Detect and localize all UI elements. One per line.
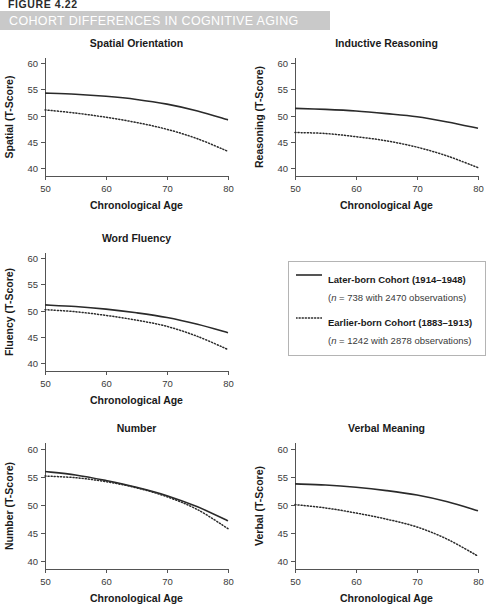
x-tick-label: 60: [101, 378, 112, 389]
series-line-dotted: [45, 476, 228, 529]
y-tick-label: 55: [27, 84, 38, 95]
x-axis-title: Chronological Age: [340, 592, 433, 604]
x-tick-label: 50: [290, 576, 301, 587]
y-axis-title: Number (T-Score): [3, 462, 15, 550]
y-tick-label: 45: [27, 528, 38, 539]
chart-panel-word-fluency: Word Fluency404550556050607080Chronologi…: [0, 228, 249, 418]
legend-sub-earlier-born: (n = 1242 with 2878 observations): [328, 335, 471, 346]
x-tick-label: 70: [412, 183, 423, 194]
y-tick-label: 50: [27, 306, 38, 317]
legend-dotted-line-icon: [296, 312, 322, 324]
y-tick-label: 50: [27, 111, 38, 122]
x-tick-label: 70: [412, 576, 423, 587]
y-tick-label: 45: [27, 332, 38, 343]
axis-spines: [45, 443, 228, 569]
chart-legend: Later-born Cohort (1914–1948) (n = 738 w…: [288, 261, 486, 356]
series-line-solid: [45, 472, 228, 521]
panel-title-number: Number: [117, 422, 157, 434]
y-tick-label: 60: [27, 253, 38, 264]
chart-panel-spatial-orientation: Spatial Orientation404550556050607080Chr…: [0, 33, 249, 223]
x-tick-label: 80: [473, 576, 484, 587]
x-axis-title: Chronological Age: [90, 394, 183, 406]
x-tick-label: 60: [351, 576, 362, 587]
y-tick-label: 60: [27, 444, 38, 455]
series-line-dotted: [45, 110, 228, 151]
series-line-solid: [45, 305, 228, 333]
y-tick-label: 45: [277, 528, 288, 539]
y-tick-label: 55: [27, 279, 38, 290]
y-axis-title: Reasoning (T-Score): [253, 66, 265, 168]
axis-spines: [295, 443, 478, 569]
x-axis-title: Chronological Age: [90, 199, 183, 211]
y-axis-title: Verbal (T-Score): [253, 466, 265, 546]
panel-title-spatial-orientation: Spatial Orientation: [90, 37, 183, 49]
x-tick-label: 50: [40, 183, 51, 194]
y-axis-title: Spatial (T-Score): [3, 76, 15, 159]
y-tick-label: 60: [27, 58, 38, 69]
x-tick-label: 80: [223, 576, 234, 587]
x-axis-title: Chronological Age: [340, 199, 433, 211]
y-tick-label: 40: [27, 358, 38, 369]
x-tick-label: 60: [101, 576, 112, 587]
y-tick-label: 55: [277, 84, 288, 95]
panel-title-inductive-reasoning: Inductive Reasoning: [335, 37, 438, 49]
series-line-dotted: [295, 505, 478, 557]
panel-title-word-fluency: Word Fluency: [102, 232, 171, 244]
chart-panel-inductive-reasoning: Inductive Reasoning404550556050607080Chr…: [250, 33, 499, 223]
series-line-dotted: [45, 310, 228, 350]
y-tick-label: 55: [27, 472, 38, 483]
y-tick-label: 60: [277, 444, 288, 455]
chart-panel-verbal-meaning: Verbal Meaning404550556050607080Chronolo…: [250, 418, 499, 616]
banner-title: COHORT DIFFERENCES IN COGNITIVE AGING: [0, 14, 299, 28]
legend-sub-later-born: (n = 738 with 2470 observations): [328, 292, 466, 303]
x-tick-label: 70: [162, 183, 173, 194]
series-line-solid: [295, 484, 478, 511]
y-tick-label: 50: [277, 500, 288, 511]
y-axis-title: Fluency (T-Score): [3, 268, 15, 356]
x-tick-label: 80: [223, 183, 234, 194]
y-tick-label: 60: [277, 58, 288, 69]
series-line-solid: [45, 93, 228, 120]
legend-row: Earlier-born Cohort (1883–1913) (n = 124…: [296, 312, 477, 348]
figure-number: FIGURE 4.22: [8, 0, 78, 10]
axis-spines: [295, 58, 478, 176]
section-banner: COHORT DIFFERENCES IN COGNITIVE AGING: [0, 11, 330, 30]
legend-label-earlier-born: Earlier-born Cohort (1883–1913): [328, 317, 472, 328]
legend-row: Later-born Cohort (1914–1948) (n = 738 w…: [296, 269, 477, 305]
x-tick-label: 50: [290, 183, 301, 194]
x-tick-label: 80: [473, 183, 484, 194]
panel-title-verbal-meaning: Verbal Meaning: [348, 422, 425, 434]
axis-spines: [45, 58, 228, 176]
y-tick-label: 45: [27, 137, 38, 148]
x-axis-title: Chronological Age: [90, 592, 183, 604]
series-line-dotted: [295, 132, 478, 167]
x-tick-label: 50: [40, 378, 51, 389]
y-tick-label: 50: [27, 500, 38, 511]
series-line-solid: [295, 108, 478, 128]
y-tick-label: 40: [277, 163, 288, 174]
legend-solid-line-icon: [296, 269, 322, 281]
y-tick-label: 45: [277, 137, 288, 148]
x-tick-label: 50: [40, 576, 51, 587]
x-tick-label: 60: [351, 183, 362, 194]
y-tick-label: 40: [277, 556, 288, 567]
y-tick-label: 40: [27, 163, 38, 174]
y-tick-label: 40: [27, 556, 38, 567]
chart-panel-number: Number404550556050607080Chronological Ag…: [0, 418, 249, 616]
x-tick-label: 70: [162, 378, 173, 389]
x-tick-label: 80: [223, 378, 234, 389]
x-tick-label: 60: [101, 183, 112, 194]
y-tick-label: 55: [277, 472, 288, 483]
x-tick-label: 70: [162, 576, 173, 587]
y-tick-label: 50: [277, 111, 288, 122]
legend-label-later-born: Later-born Cohort (1914–1948): [328, 274, 466, 285]
